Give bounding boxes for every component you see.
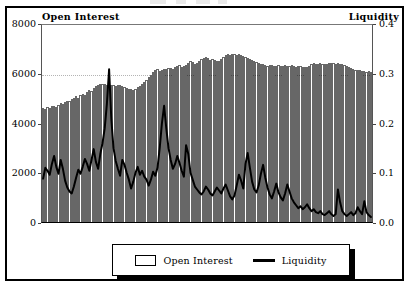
right-tick-0.0: 0.0: [379, 217, 394, 228]
left-axis-title: Open Interest: [42, 11, 120, 22]
cropped-title-artifact: [0, 0, 413, 5]
legend-entry-open-interest: Open Interest: [135, 255, 232, 266]
plot-area: [41, 24, 373, 223]
right-tick-0.1: 0.1: [379, 167, 394, 178]
right-tick-0.2: 0.2: [379, 118, 394, 129]
left-tick-6000: 6000: [0, 68, 36, 79]
legend-label-liquidity: Liquidity: [282, 255, 327, 266]
left-tick-8000: 8000: [0, 18, 36, 29]
left-tick-0: 0: [0, 217, 36, 228]
right-tick-0.4: 0.4: [379, 18, 394, 29]
left-tickmark-2000: [38, 173, 41, 174]
right-tickmark-0.3: [373, 74, 376, 75]
left-tick-2000: 2000: [0, 167, 36, 178]
right-tickmark-0.1: [373, 173, 376, 174]
left-tickmark-0: [38, 223, 41, 224]
left-tick-4000: 4000: [0, 118, 36, 129]
legend-label-open-interest: Open Interest: [163, 255, 232, 266]
chart-legend: Open Interest Liquidity: [112, 244, 350, 276]
right-tickmark-0.4: [373, 24, 376, 25]
line-swatch-icon: [253, 259, 275, 262]
right-tick-0.3: 0.3: [379, 68, 394, 79]
bar-swatch-icon: [135, 255, 156, 266]
legend-entry-liquidity: Liquidity: [253, 255, 327, 266]
left-tickmark-6000: [38, 74, 41, 75]
left-tickmark-4000: [38, 124, 41, 125]
chart-screenshot: Open Interest Liquidity 0200040006000800…: [0, 0, 413, 290]
right-tickmark-0.0: [373, 223, 376, 224]
plot-inner: [42, 25, 372, 222]
liquidity-line: [42, 25, 372, 222]
left-tickmark-8000: [38, 24, 41, 25]
right-tickmark-0.2: [373, 124, 376, 125]
